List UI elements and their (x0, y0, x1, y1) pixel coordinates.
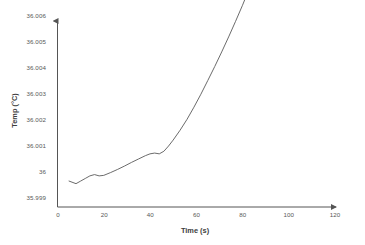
y-tick-label: 36.001 (14, 142, 46, 149)
x-tick-label: 80 (229, 211, 257, 218)
x-tick-label: 100 (275, 211, 303, 218)
x-tick-label: 60 (183, 211, 211, 218)
x-tick-label: 0 (44, 211, 72, 218)
x-tick-label: 20 (90, 211, 118, 218)
y-axis-title: Temp (°C) (10, 81, 19, 141)
y-tick-label: 36.002 (14, 116, 46, 123)
y-tick-label: 35.999 (14, 194, 46, 201)
y-tick-label: 36.004 (14, 64, 46, 71)
y-tick-label: 36.005 (14, 38, 46, 45)
data-series-temp (69, 0, 289, 184)
x-tick-label: 40 (136, 211, 164, 218)
y-tick-label: 36 (14, 168, 46, 175)
y-tick-label: 36.003 (14, 90, 46, 97)
chart-plot-area (0, 0, 365, 245)
line-chart: 36.006 36.005 36.004 36.003 36.002 36.00… (0, 0, 365, 245)
x-axis-title: Time (s) (155, 226, 235, 235)
x-tick-label: 120 (321, 211, 349, 218)
y-tick-label: 36.006 (14, 12, 46, 19)
